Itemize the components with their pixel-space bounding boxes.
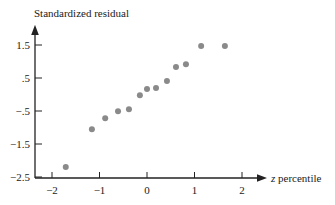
x-tick-label: 1 (192, 184, 198, 196)
y-ticks: 1.5.5−.5−1.5−2.5 (10, 39, 42, 183)
y-axis-label: Standardized residual (34, 7, 129, 19)
axes (35, 30, 262, 178)
data-point (222, 43, 228, 49)
y-tick-label: −2.5 (10, 171, 30, 183)
data-point (137, 92, 143, 98)
x-ticks: −2−1012 (46, 172, 245, 196)
x-tick-label: −2 (46, 184, 58, 196)
x-tick-label: 2 (239, 184, 245, 196)
data-point (183, 61, 189, 67)
y-tick-label: .5 (22, 72, 31, 84)
y-tick-label: 1.5 (16, 39, 30, 51)
data-point (173, 64, 179, 70)
data-point (144, 86, 150, 92)
scatter-plot: 1.5.5−.5−1.5−2.5 −2−1012 Standardized re… (0, 0, 335, 205)
x-tick-label: 0 (144, 184, 150, 196)
y-tick-label: −1.5 (10, 138, 30, 150)
y-tick-label: −.5 (16, 105, 31, 117)
data-point (198, 43, 204, 49)
x-axis-label: z percentile (270, 172, 322, 184)
data-point (63, 164, 69, 170)
data-points (63, 43, 228, 170)
data-point (115, 108, 121, 114)
data-point (102, 115, 108, 121)
data-point (153, 85, 159, 91)
x-tick-label: −1 (94, 184, 106, 196)
data-point (164, 78, 170, 84)
data-point (89, 126, 95, 132)
data-point (126, 106, 132, 112)
